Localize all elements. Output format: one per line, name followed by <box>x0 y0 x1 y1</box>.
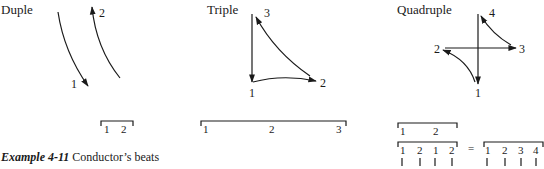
quadruple-bracket-top-2: 2 <box>433 125 439 137</box>
duple-title: Duple <box>1 2 33 18</box>
quadruple-bracket-right-2: 2 <box>502 144 508 156</box>
quadruple-beat-1-label: 1 <box>475 87 481 99</box>
quadruple-pulse-ticks-right <box>487 158 536 166</box>
triple-bracket-1: 1 <box>203 123 209 135</box>
quadruple-pulse-ticks-left <box>402 158 452 166</box>
quadruple-bracket-right-1: 1 <box>485 144 491 156</box>
quadruple-beat-2-stroke <box>443 50 475 82</box>
quadruple-beat-4-label: 4 <box>489 7 495 19</box>
triple-bracket-3: 3 <box>336 123 342 135</box>
triple-beat-2-label: 2 <box>320 77 326 89</box>
quadruple-bracket-right-4: 4 <box>533 144 539 156</box>
triple-beat-1-label: 1 <box>249 87 255 99</box>
duple-beat-1-stroke <box>58 12 88 86</box>
quadruple-bracket-mid-3: 1 <box>433 144 439 156</box>
triple-bracket-2: 2 <box>269 123 275 135</box>
caption-label: Example 4-11 <box>1 150 69 164</box>
quadruple-title: Quadruple <box>397 2 452 18</box>
quadruple-beat-4-stroke <box>481 16 511 45</box>
triple-beat-3-label: 3 <box>264 7 270 19</box>
triple-beat-3-stroke <box>256 17 310 76</box>
triple-title: Triple <box>207 2 238 18</box>
quadruple-bracket-top <box>398 123 457 128</box>
quadruple-beat-2-label: 2 <box>434 43 440 55</box>
duple-bracket-1: 1 <box>104 123 110 135</box>
conductor-beats-diagram <box>0 0 544 169</box>
duple-beat-2-label: 2 <box>99 7 105 19</box>
quadruple-bracket-mid-4: 2 <box>449 144 455 156</box>
caption-text: Conductor’s beats <box>72 150 159 164</box>
equals-sign: = <box>468 142 474 154</box>
duple-bracket-2: 2 <box>121 123 127 135</box>
quadruple-bracket-top-1: 1 <box>400 125 406 137</box>
quadruple-bracket-mid-2: 2 <box>417 144 423 156</box>
figure-caption: Example 4-11 Conductor’s beats <box>1 150 159 165</box>
quadruple-beat-3-label: 3 <box>519 43 525 55</box>
duple-beat-1-label: 1 <box>71 78 77 90</box>
duple-beat-2-stroke <box>92 7 120 78</box>
triple-beat-2-stroke <box>253 78 316 82</box>
quadruple-bracket-mid-1: 1 <box>400 144 406 156</box>
quadruple-bracket-right-3: 3 <box>518 144 524 156</box>
